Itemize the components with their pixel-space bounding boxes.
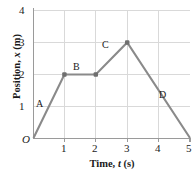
- segment-label-c: C: [102, 40, 109, 50]
- segment-label-a: A: [36, 99, 43, 109]
- chart-canvas: [0, 0, 196, 177]
- x-tick-label-1: 1: [61, 143, 67, 154]
- x-tick-label-2: 2: [92, 143, 98, 154]
- x-axis-title-prefix: Time,: [89, 158, 117, 169]
- x-axis-title: Time, t (s): [33, 158, 191, 169]
- segment-label-d: D: [159, 90, 166, 100]
- x-axis-title-suffix: (s): [121, 158, 135, 169]
- data-point-3-3: [125, 40, 129, 44]
- x-tick-label-5: 5: [186, 143, 192, 154]
- y-axis-title: Position, x (m): [11, 15, 22, 119]
- data-point-1-2: [62, 72, 66, 76]
- data-point-2-2: [94, 72, 98, 76]
- position-time-chart: 4 3 2 1 O 1 2 3 4 5 A B C D Position, x …: [0, 0, 196, 177]
- y-axis-title-suffix: (m): [11, 34, 22, 52]
- x-tick-label-3: 3: [124, 143, 130, 154]
- origin-label: O: [22, 133, 30, 145]
- y-axis-title-prefix: Position,: [11, 58, 22, 99]
- x-tick-label-4: 4: [155, 143, 161, 154]
- y-axis-title-symbol: x: [11, 52, 22, 57]
- segment-label-b: B: [73, 62, 80, 72]
